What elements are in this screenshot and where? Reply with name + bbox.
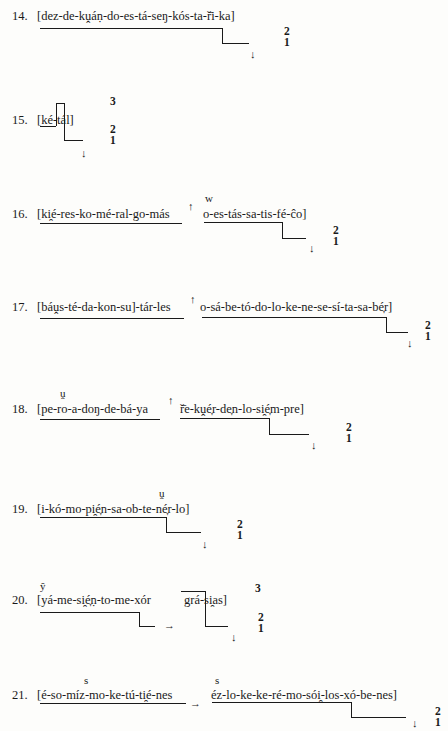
superscript-mark: ṷ (60, 388, 66, 399)
superscript-mark: ŷ (40, 581, 46, 592)
sustained-juncture-arrow-icon: → (190, 698, 201, 709)
phonetic-transcription-b: o-es-tás-sa-tis-fé-ĉo] (203, 207, 306, 221)
falling-terminal-arrow-icon: ↓ (311, 440, 317, 451)
phonetic-transcription-a: [é-so-míz-mo-ke-tú-ti̯é-nes (37, 688, 172, 702)
phonetic-transcription: [dez-de-kṷáṇ-do-es-tá-seŋ-kós-ta-ř̄i-ka] (37, 9, 235, 23)
falling-terminal-arrow-icon: ↓ (250, 49, 256, 60)
rising-juncture-arrow-icon: ↑ (190, 294, 196, 305)
superscript-mark: ṷ (159, 488, 165, 499)
phonetic-transcription-a: [báṷs-té-da-kon-su]-tár-les (37, 300, 171, 314)
phonetic-transcription-a: [ki̯é-res-ko-mé-ral-go-más (37, 207, 170, 221)
contour-line (40, 28, 222, 29)
superscript-mark: s (84, 675, 88, 686)
pitch-level-1: 1 (237, 530, 243, 541)
phonetic-transcription-a: [yá-me-si̯é̞ṇ-to-me-xór (37, 593, 151, 607)
falling-terminal-arrow-icon: ↓ (412, 718, 418, 729)
falling-terminal-arrow-icon: ↓ (231, 632, 237, 643)
falling-terminal-arrow-icon: ↓ (407, 338, 413, 349)
example-number: 20. (12, 593, 28, 607)
superscript-mark-b: s (215, 675, 219, 686)
example-number: 19. (12, 502, 28, 516)
pitch-level-1: 1 (284, 37, 290, 48)
pitch-level-1: 1 (110, 135, 116, 146)
superscript-mark: w (205, 193, 213, 204)
example-number: 15. (12, 113, 28, 127)
example-number: 16. (12, 207, 28, 221)
example-number: 14. (12, 9, 28, 23)
example-number: 18. (12, 402, 28, 416)
phonetic-transcription-b: ř̄e-kṷé̞r-de̞n-lo-si̯é̞m-pre] (180, 402, 304, 416)
pitch-level-1: 1 (258, 623, 264, 634)
rising-juncture-arrow-icon: ↑ (188, 201, 194, 212)
falling-terminal-arrow-icon: ↓ (309, 243, 315, 254)
phonetic-transcription-a: [pe-ro-a-doŋ-de-bá-ya (37, 402, 148, 416)
pitch-level-3: 3 (255, 583, 261, 594)
pitch-level-3: 3 (110, 96, 116, 107)
falling-terminal-arrow-icon: ↓ (202, 539, 208, 550)
pitch-level-1: 1 (435, 717, 441, 728)
example-number: 17. (12, 300, 28, 314)
pitch-level-1: 1 (333, 236, 339, 247)
phonetic-transcription-b: éz-lo-ke-ke-ré-mo-sói̯-los-xó-be-nes] (211, 688, 397, 702)
phonetic-transcription-b: o-sá-be-tó-do-lo-ke-ne-se-sí-ta-sa-bé̞r] (200, 300, 392, 314)
rising-juncture-arrow-icon: ↑ (168, 395, 174, 406)
example-number: 21. (12, 688, 28, 702)
pitch-level-1: 1 (425, 331, 431, 342)
falling-terminal-arrow-icon: ↓ (81, 148, 87, 159)
phonetic-transcription: [i-kó-mo-pi̯é̞n-sa-ob-te-né̞r-lo] (37, 502, 189, 516)
pitch-level-1: 1 (346, 433, 352, 444)
sustained-juncture-arrow-icon: → (164, 620, 175, 631)
